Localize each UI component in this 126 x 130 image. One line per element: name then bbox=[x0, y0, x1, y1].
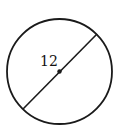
diameter-label: 12 bbox=[40, 53, 58, 69]
center-point bbox=[57, 69, 61, 73]
circle-diagram: 12 bbox=[0, 0, 126, 130]
